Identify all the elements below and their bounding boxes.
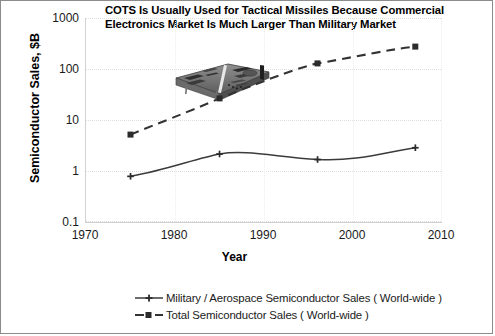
series-total-semiconductor-sales (128, 44, 419, 138)
data-point-marker (412, 44, 418, 50)
y-tick-label: 100 (19, 62, 79, 76)
x-tick-label: 2010 (411, 228, 471, 242)
x-axis-line (85, 222, 442, 223)
series-total-line (131, 47, 416, 135)
x-axis-tick-labels: 1970 1980 1990 2000 2010 (1, 228, 495, 248)
data-point-marker (315, 60, 321, 66)
legend-label: Total Semiconductor Sales ( World-wide ) (166, 309, 369, 321)
chart-legend: Military / Aerospace Semiconductor Sales… (1, 289, 468, 323)
x-axis-title: Year (1, 250, 468, 264)
y-axis-tick-labels: 1000 100 10 1 0.1 (17, 1, 79, 336)
chart-title-line-1: COTS Is Usually Used for Tactical Missil… (105, 4, 491, 18)
legend-swatch-solid-cross-icon (134, 292, 164, 304)
series-military-line (131, 148, 416, 177)
y-tick-label: 0.1 (19, 215, 79, 229)
chart-container: COTS Is Usually Used for Tactical Missil… (0, 0, 493, 334)
x-tick-label: 2000 (322, 228, 382, 242)
data-point-markers (127, 144, 418, 179)
x-tick-label: 1970 (55, 228, 115, 242)
legend-item-military-aerospace[interactable]: Military / Aerospace Semiconductor Sales… (1, 289, 468, 306)
series-plot (86, 18, 442, 222)
y-tick-label: 1000 (19, 11, 79, 25)
series-military-aerospace-semiconductor-sales (127, 144, 418, 179)
x-tick-label: 1980 (144, 228, 204, 242)
plot-area (85, 18, 441, 222)
legend-item-total-semiconductor[interactable]: Total Semiconductor Sales ( World-wide ) (1, 306, 468, 323)
data-point-marker (128, 132, 134, 138)
legend-swatch-dashed-square-icon (134, 309, 164, 321)
y-tick-label: 1 (19, 164, 79, 178)
y-tick-label: 10 (19, 113, 79, 127)
x-tick-label: 1990 (233, 228, 293, 242)
data-point-marker (217, 95, 223, 101)
legend-label: Military / Aerospace Semiconductor Sales… (166, 292, 442, 304)
